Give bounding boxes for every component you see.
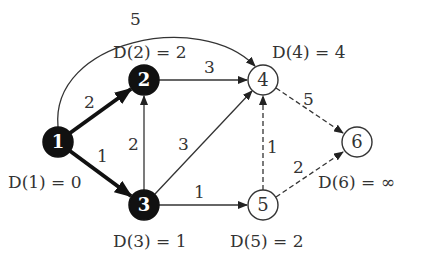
node-5-label: 5	[257, 194, 268, 215]
node-1-label: 1	[52, 131, 65, 152]
node-4-label: 4	[257, 69, 268, 90]
node-6: 6	[342, 127, 372, 157]
edge-3-4	[155, 91, 252, 194]
node-2: 2	[129, 65, 159, 95]
node-2-label: 2	[138, 69, 151, 90]
edges	[58, 38, 343, 205]
weight-2-4: 3	[204, 57, 215, 77]
distance-label-5: D(5) = 2	[230, 231, 304, 251]
node-3-label: 3	[138, 194, 151, 215]
nodes: 1 2 3 4 5 6	[43, 65, 372, 220]
distance-label-1: D(1) = 0	[8, 172, 82, 192]
node-1: 1	[43, 127, 73, 157]
edge-1-2	[70, 89, 131, 133]
distance-label-4: D(4) = 4	[272, 42, 346, 62]
node-5: 5	[248, 190, 278, 220]
node-6-label: 6	[351, 131, 362, 152]
node-3: 3	[129, 190, 159, 220]
weight-1-4: 5	[130, 9, 141, 29]
weight-3-2: 2	[128, 134, 139, 154]
weight-5-6: 2	[293, 157, 304, 177]
weight-4-6: 5	[303, 89, 314, 109]
weight-5-4: 1	[267, 137, 278, 157]
edge-weights: 5 2 1 3 2 3 1 5 1 2	[84, 9, 314, 202]
node-4: 4	[248, 65, 278, 95]
weight-1-3: 1	[97, 146, 108, 166]
distance-label-2: D(2) = 2	[113, 42, 187, 62]
distance-label-6: D(6) = ∞	[318, 172, 395, 192]
shortest-path-graph: 5 2 1 3 2 3 1 5 1 2 1 2 3 4 5	[0, 0, 426, 257]
weight-3-5: 1	[194, 182, 205, 202]
distance-label-3: D(3) = 1	[113, 231, 187, 251]
weight-3-4: 3	[178, 134, 189, 154]
weight-1-2: 2	[84, 92, 95, 112]
